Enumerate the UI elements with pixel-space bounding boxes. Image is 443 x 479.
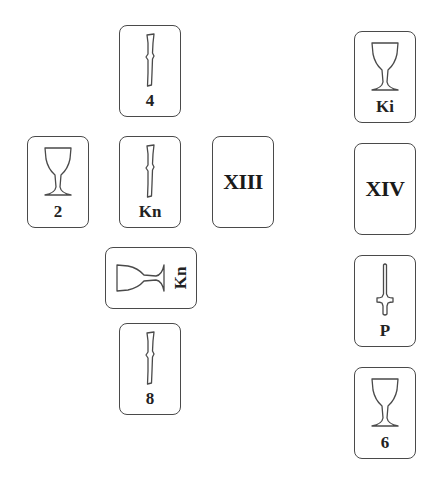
card-label: 2: [28, 202, 88, 222]
wand-icon: [140, 33, 160, 89]
cup-icon: [114, 261, 170, 295]
card-label: Kn: [120, 202, 180, 222]
wand-icon: [140, 331, 160, 387]
cup-icon: [368, 376, 402, 432]
card-swords-page[interactable]: P: [354, 255, 416, 347]
card-label: Kn: [171, 248, 191, 308]
card-label: 4: [120, 91, 180, 111]
card-wands-8[interactable]: 8: [119, 323, 181, 415]
wand-icon: [140, 144, 160, 200]
card-cups-knight-crossing[interactable]: Kn: [105, 247, 197, 309]
card-label: 8: [120, 389, 180, 409]
cup-icon: [41, 145, 75, 201]
card-major-xiii[interactable]: XIII: [212, 136, 274, 228]
card-major-xiv[interactable]: XIV: [354, 143, 416, 235]
card-label: P: [355, 321, 415, 341]
card-cups-6[interactable]: 6: [354, 367, 416, 459]
card-label: 6: [355, 433, 415, 453]
card-cups-2[interactable]: 2: [27, 136, 89, 228]
card-label: XIV: [355, 176, 415, 202]
card-label: XIII: [213, 169, 273, 195]
sword-icon: [374, 262, 396, 320]
cup-icon: [368, 40, 402, 96]
card-wands-knight[interactable]: Kn: [119, 136, 181, 228]
card-cups-king[interactable]: Ki: [354, 31, 416, 123]
card-wands-4[interactable]: 4: [119, 25, 181, 117]
card-label: Ki: [355, 97, 415, 117]
